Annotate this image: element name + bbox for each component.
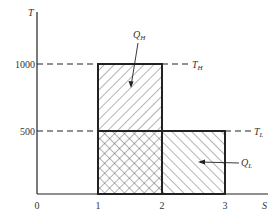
- y-axis-label: T: [28, 7, 35, 18]
- y-tick-1000: 1000: [15, 59, 35, 70]
- x-tick-3: 3: [223, 200, 228, 211]
- y-tick-500: 500: [20, 126, 35, 137]
- qh-upper-region: [98, 64, 162, 131]
- ts-diagram: T S 1000 500 0 1 2 3 TH TL QH QL: [0, 0, 277, 220]
- x-axis-label: S: [262, 200, 267, 211]
- x-tick-2: 2: [160, 200, 165, 211]
- overlap-region: [98, 131, 162, 194]
- tl-label: TL: [254, 126, 264, 139]
- x-tick-0: 0: [35, 200, 40, 211]
- th-label: TH: [192, 59, 204, 72]
- x-tick-1: 1: [96, 200, 101, 211]
- qh-label: QH: [133, 29, 146, 42]
- ql-label: QL: [241, 157, 252, 170]
